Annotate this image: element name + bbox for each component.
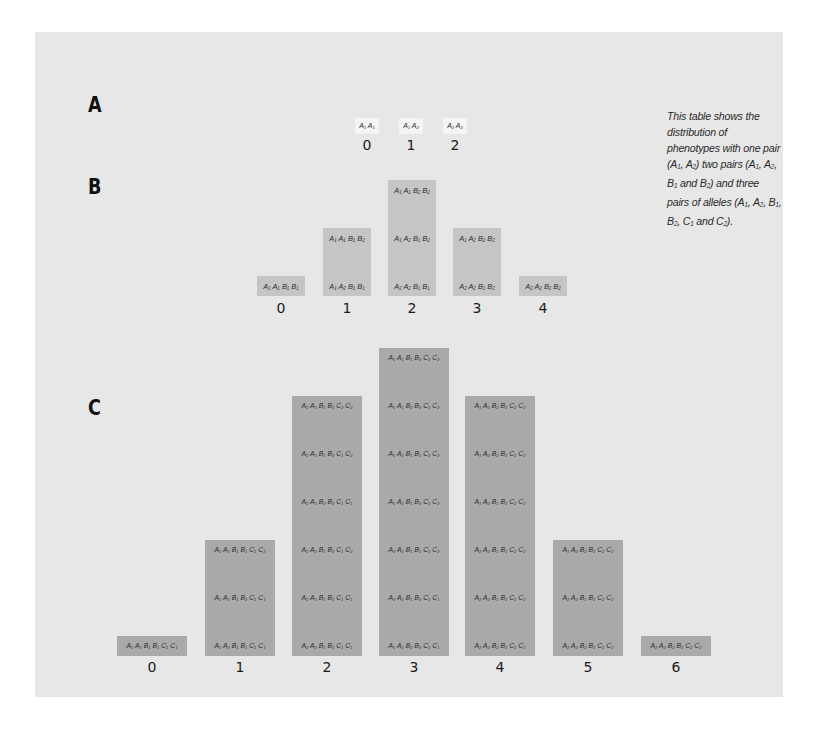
- genotype-label: A1 A1 B2 B2 C2 C2: [465, 402, 535, 410]
- genotype-label: A2 A2 B2 B2: [519, 282, 567, 291]
- phenotype-column-2: A1 A1 B1 B1 C2 C2A1 A1 B1 B2 C1 C2A1 A1 …: [292, 396, 362, 656]
- genotype-label: A1 A1 B2 B2 C1 C2: [379, 402, 449, 410]
- phenotype-column-0: A1 A1: [355, 118, 379, 134]
- phenotype-number: 4: [528, 300, 558, 316]
- genotype-label: A1 A2 B1 B2 C1 C2: [379, 498, 449, 506]
- phenotype-column-4: A1 A1 B2 B2 C2 C2A1 A2 B2 B2 C1 C2A1 A2 …: [465, 396, 535, 656]
- genotype-label: A1 A1 B1 B1: [257, 282, 305, 291]
- phenotype-number: 5: [573, 659, 603, 675]
- phenotype-column-3: A1 A2 B2 B2A2 A2 B1 B2: [453, 228, 501, 296]
- genotype-label: A1 A2: [399, 122, 423, 130]
- genotype-label: A1 A2 B1 B2 C2 C2: [465, 498, 535, 506]
- genotype-box: [465, 396, 535, 656]
- phenotype-column-1: A1 A1 B1 B1 C1 C2A1 A1 B1 B2 C1 C1A1 A2 …: [205, 540, 275, 656]
- phenotype-column-1: A1 A1 B1 B2A1 A2 B1 B1: [323, 228, 371, 296]
- phenotype-number: 2: [312, 659, 342, 675]
- genotype-label: A1 A2 B2 B2 C1 C1: [379, 642, 449, 650]
- genotype-label: A2 A2 B1 B1 C2 C2: [465, 546, 535, 554]
- phenotype-column-0: A1 A1 B1 B1: [257, 276, 305, 296]
- genotype-label: A1 A2 B1 B2 C1 C2: [292, 546, 362, 554]
- genotype-label: A2 A2 B1 B1: [388, 282, 436, 291]
- phenotype-number: 3: [399, 659, 429, 675]
- genotype-label: A2 A2 B2 B2 C1 C1: [465, 642, 535, 650]
- phenotype-number: 2: [397, 300, 427, 316]
- phenotype-column-5: A1 A2 B2 B2 C2 C2A2 A2 B1 B2 C2 C2A2 A2 …: [553, 540, 623, 656]
- phenotype-number: 6: [661, 659, 691, 675]
- phenotype-number: 3: [462, 300, 492, 316]
- genotype-label: A1 A1 B2 B2 C1 C1: [292, 498, 362, 506]
- phenotype-number: 2: [440, 137, 470, 153]
- genotype-label: A1 A1 B1 B1 C1 C1: [292, 594, 362, 602]
- section-label-c: C: [88, 395, 101, 420]
- genotype-label: A2 A2 B2 B2 C1 C2: [553, 642, 623, 650]
- genotype-label: A2 A2: [443, 122, 467, 130]
- genotype-label: A1 A2 B2 B2 C2 C2: [553, 546, 623, 554]
- genotype-label: A1 A2 B1 B2: [388, 234, 436, 243]
- genotype-label: A1 A1 B2 B2: [388, 186, 436, 195]
- genotype-label: A1 A1 B1 B2: [323, 234, 371, 243]
- phenotype-number: 0: [352, 137, 382, 153]
- genotype-label: A2 A2 B1 B2 C2 C2: [553, 594, 623, 602]
- phenotype-column-4: A2 A2 B2 B2: [519, 276, 567, 296]
- genotype-box: [292, 396, 362, 656]
- genotype-label: A1 A1 B1 B2 C1 C1: [205, 594, 275, 602]
- genotype-label: A1 A1 B1 B2 C2 C2: [379, 354, 449, 362]
- phenotype-column-2: A1 A1 B2 B2A1 A2 B1 B2A2 A2 B1 B1: [388, 180, 436, 296]
- phenotype-column-2: A2 A2: [443, 118, 467, 134]
- genotype-label: A1 A1 B1 B1 C1 C2: [205, 546, 275, 554]
- description-note: This table shows the distribution of phe…: [667, 108, 782, 232]
- genotype-label: A1 A1: [355, 122, 379, 130]
- genotype-label: A1 A1 B1 B1 C1 C1: [117, 642, 187, 650]
- section-label-b: B: [88, 174, 101, 199]
- genotype-label: A1 A2 B1 B1 C1 C1: [205, 642, 275, 650]
- phenotype-number: 1: [332, 300, 362, 316]
- genotype-label: A1 A1 B1 B1 C2 C2: [292, 402, 362, 410]
- phenotype-number: 0: [266, 300, 296, 316]
- phenotype-number: 0: [137, 659, 167, 675]
- phenotype-column-1: A1 A2: [399, 118, 423, 134]
- genotype-label: A2 A2 B1 B1 C1 C1: [292, 642, 362, 650]
- genotype-label: A1 A2 B1 B1 C2 C2: [379, 450, 449, 458]
- genotype-label: A1 A1 B1 B2 C1 C2: [292, 450, 362, 458]
- genotype-label: A1 A2 B2 B2: [453, 234, 501, 243]
- phenotype-number: 4: [485, 659, 515, 675]
- genotype-label: A1 A2 B1 B1: [323, 282, 371, 291]
- section-label-a: A: [88, 92, 102, 117]
- genotype-label: A2 A2 B1 B2 C1 C1: [379, 594, 449, 602]
- phenotype-number: 1: [396, 137, 426, 153]
- genotype-label: A1 A2 B2 B2 C1 C2: [465, 450, 535, 458]
- genotype-label: A2 A2 B1 B2: [453, 282, 501, 291]
- genotype-label: A2 A2 B1 B2 C1 C2: [465, 594, 535, 602]
- genotype-label: A2 A2 B1 B1 C1 C2: [379, 546, 449, 554]
- phenotype-column-3: A1 A1 B1 B2 C2 C2A1 A1 B2 B2 C1 C2A1 A2 …: [379, 348, 449, 656]
- phenotype-number: 1: [225, 659, 255, 675]
- genotype-label: A2 A2 B2 B2 C2 C2: [641, 642, 711, 650]
- phenotype-column-6: A2 A2 B2 B2 C2 C2: [641, 636, 711, 656]
- phenotype-column-0: A1 A1 B1 B1 C1 C1: [117, 636, 187, 656]
